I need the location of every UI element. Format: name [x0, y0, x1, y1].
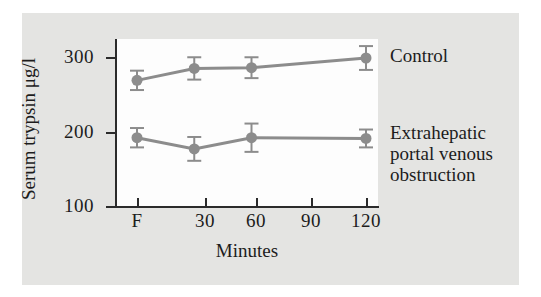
series-label-control-text: Control — [390, 45, 448, 66]
series-label-ehpvo: Extrahepatic portal venous obstruction — [390, 122, 493, 185]
data-point — [189, 143, 200, 154]
data-point — [246, 62, 257, 73]
data-point — [189, 63, 200, 74]
series-label-ehpvo-line3: obstruction — [390, 164, 493, 185]
data-point — [361, 53, 372, 64]
series-label-control: Control — [390, 45, 448, 66]
data-point — [132, 132, 143, 143]
data-point — [361, 133, 372, 144]
data-point — [246, 132, 257, 143]
series-label-ehpvo-line2: portal venous — [390, 143, 493, 164]
data-point — [132, 75, 143, 86]
figure-page: 300 200 100 F 30 60 90 120 Serum trypsin… — [0, 0, 541, 297]
series-label-ehpvo-line1: Extrahepatic — [390, 122, 493, 143]
